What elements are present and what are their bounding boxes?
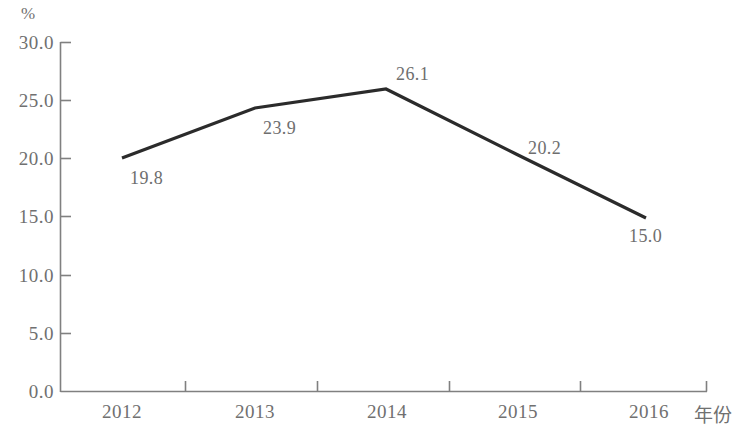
line-chart: % 30.0 25.0 20.0 15.0 10.0 5.0 0.0 2012 …: [0, 0, 733, 431]
y-axis-ticks: [61, 43, 72, 334]
series-line: [122, 89, 646, 218]
chart-canvas: [0, 0, 733, 431]
x-axis-ticks: [186, 381, 707, 392]
